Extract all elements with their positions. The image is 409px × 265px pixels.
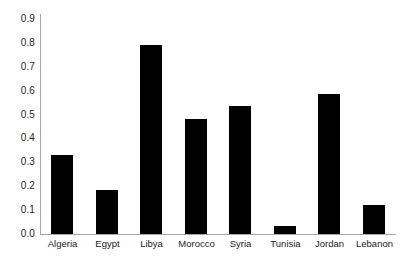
x-axis-tick-label: Lebanon	[352, 238, 397, 250]
bar	[185, 119, 207, 234]
bar-chart: 0.00.10.20.30.40.50.60.70.80.9 AlgeriaEg…	[0, 0, 409, 265]
bar-series	[0, 0, 409, 265]
bar	[363, 205, 385, 234]
x-axis-tick-label: Syria	[218, 238, 263, 250]
bar	[274, 226, 296, 234]
bar	[229, 106, 251, 234]
bar	[140, 45, 162, 234]
x-axis-tick-label: Egypt	[85, 238, 130, 250]
bar	[96, 190, 118, 234]
x-axis-tick-label: Algeria	[40, 238, 85, 250]
x-axis-tick-label: Tunisia	[263, 238, 308, 250]
bar	[51, 155, 73, 234]
x-axis-tick-label: Jordan	[307, 238, 352, 250]
x-axis-tick-label: Morocco	[174, 238, 219, 250]
bar	[318, 94, 340, 234]
x-axis-tick-label: Libya	[129, 238, 174, 250]
